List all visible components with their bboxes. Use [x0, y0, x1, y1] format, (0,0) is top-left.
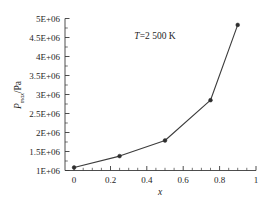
y-tick-label: 1.5E+06 — [29, 147, 60, 157]
x-tick-label: 1 — [254, 175, 259, 185]
y-tick-label: 5E+06 — [36, 14, 61, 24]
temperature-annotation: T=2 500 K — [134, 31, 175, 41]
x-tick-label: 0.4 — [141, 175, 153, 185]
data-point — [209, 98, 213, 102]
data-point — [72, 166, 76, 170]
data-point — [163, 139, 167, 143]
data-point — [236, 23, 240, 27]
x-axis-title: x — [157, 187, 163, 197]
y-tick-label: 1E+06 — [36, 166, 61, 176]
y-axis-title-unit: /Pa — [13, 80, 23, 93]
x-tick-label: 0 — [72, 175, 77, 185]
x-tick-label: 0.2 — [105, 175, 116, 185]
x-tick-label: 0.8 — [214, 175, 226, 185]
y-tick-label: 4E+06 — [36, 52, 61, 62]
chart-figure: 5E+06 4.5E+06 4E+06 3.5E+06 3E+06 2.5E+0… — [0, 0, 272, 201]
y-tick-label: 4.5E+06 — [29, 33, 60, 43]
y-tick-label: 2E+06 — [36, 128, 61, 138]
y-tick-label: 3E+06 — [36, 90, 61, 100]
y-axis-title-subscript: max — [19, 93, 25, 103]
y-tick-label: 3.5E+06 — [29, 71, 60, 81]
temperature-annotation-value: =2 500 K — [140, 31, 176, 41]
y-tick-label: 2.5E+06 — [29, 109, 60, 119]
x-tick-label: 0.6 — [178, 175, 190, 185]
data-point — [118, 154, 122, 158]
chart-canvas: 5E+06 4.5E+06 4E+06 3.5E+06 3E+06 2.5E+0… — [0, 0, 272, 201]
